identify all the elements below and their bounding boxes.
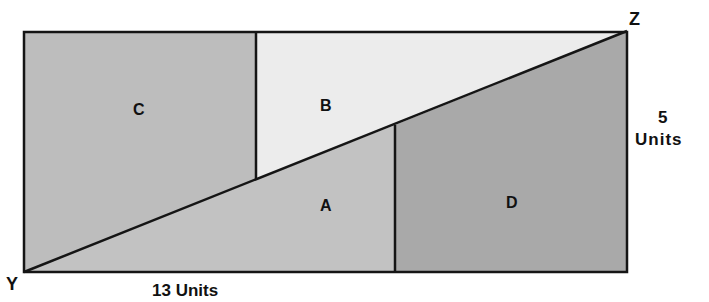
region-c-label: C xyxy=(133,102,145,118)
rectangle-dissection-figure xyxy=(0,0,709,302)
region-a-label: A xyxy=(320,198,332,214)
region-d-label: D xyxy=(506,195,518,211)
region-b-label: B xyxy=(320,98,332,114)
vertex-y-label: Y xyxy=(6,275,18,293)
vertex-z-label: Z xyxy=(629,10,640,28)
height-dimension-unit: Units xyxy=(635,131,683,148)
height-dimension-value: 5 xyxy=(658,109,667,126)
width-dimension-label: 13 Units xyxy=(152,282,218,299)
